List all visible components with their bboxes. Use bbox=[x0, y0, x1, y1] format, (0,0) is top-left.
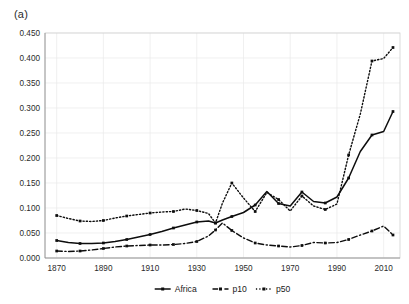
data-point-marker bbox=[301, 244, 304, 247]
data-point-marker bbox=[301, 195, 304, 198]
data-point-marker bbox=[55, 250, 58, 253]
legend-marker-africa bbox=[161, 288, 164, 291]
data-point-marker bbox=[149, 233, 152, 236]
y-tick-label: 0.050 bbox=[20, 229, 41, 238]
y-tick-label: 0.000 bbox=[20, 254, 41, 263]
plot-frame bbox=[45, 33, 400, 258]
y-tick-label: 0.350 bbox=[20, 79, 41, 88]
x-tick-label: 1870 bbox=[48, 264, 67, 273]
data-point-marker bbox=[254, 204, 257, 207]
data-point-marker bbox=[371, 60, 374, 63]
data-point-marker bbox=[230, 215, 233, 218]
data-point-marker bbox=[172, 210, 175, 213]
data-point-marker bbox=[79, 220, 82, 223]
x-tick-label: 1910 bbox=[141, 264, 160, 273]
data-point-marker bbox=[324, 202, 327, 205]
data-point-marker bbox=[277, 198, 280, 201]
legend-label-p50: p50 bbox=[276, 284, 291, 294]
data-point-marker bbox=[254, 210, 257, 213]
series-line bbox=[57, 112, 393, 244]
data-point-marker bbox=[172, 227, 175, 230]
data-point-marker bbox=[371, 134, 374, 137]
data-point-marker bbox=[125, 215, 128, 218]
y-tick-label: 0.150 bbox=[20, 179, 41, 188]
data-point-marker bbox=[149, 244, 152, 247]
y-axis-tick-labels: 0.0000.0500.1000.1500.2000.2500.3000.350… bbox=[20, 29, 41, 263]
y-tick-label: 0.450 bbox=[20, 29, 41, 38]
legend-marker-p50 bbox=[262, 288, 265, 291]
data-point-marker bbox=[254, 242, 257, 245]
x-tick-label: 1890 bbox=[94, 264, 113, 273]
y-tick-label: 0.300 bbox=[20, 104, 41, 113]
data-point-marker bbox=[172, 243, 175, 246]
data-point-marker bbox=[102, 242, 105, 245]
data-point-marker bbox=[102, 219, 105, 222]
chart-legend: Africap10p50 bbox=[155, 284, 291, 294]
series-line bbox=[57, 48, 393, 224]
data-point-marker bbox=[214, 229, 217, 232]
y-tick-label: 0.400 bbox=[20, 54, 41, 63]
data-point-marker bbox=[371, 230, 374, 233]
data-point-marker bbox=[392, 110, 395, 113]
data-point-marker bbox=[392, 234, 395, 237]
data-point-marker bbox=[347, 154, 350, 157]
series-p50 bbox=[55, 46, 394, 224]
x-tick-label: 1950 bbox=[234, 264, 253, 273]
data-point-marker bbox=[301, 191, 304, 194]
data-point-marker bbox=[102, 247, 105, 250]
series-p10 bbox=[55, 223, 394, 252]
data-point-marker bbox=[230, 182, 233, 185]
legend-label-p10: p10 bbox=[233, 284, 248, 294]
data-point-marker bbox=[214, 222, 217, 225]
data-point-marker bbox=[230, 229, 233, 232]
x-axis-tick-labels: 18701890191019301950197019902010 bbox=[48, 264, 394, 273]
data-point-marker bbox=[277, 202, 280, 205]
data-point-marker bbox=[125, 245, 128, 248]
data-point-marker bbox=[79, 250, 82, 253]
x-tick-label: 2010 bbox=[375, 264, 394, 273]
chart-plot-area: 0.0000.0500.1000.1500.2000.2500.3000.350… bbox=[0, 0, 409, 304]
data-point-marker bbox=[195, 221, 198, 224]
data-point-marker bbox=[55, 214, 58, 217]
data-point-marker bbox=[195, 209, 198, 212]
data-point-marker bbox=[125, 238, 128, 241]
gridlines bbox=[45, 33, 400, 258]
data-series-group bbox=[55, 46, 394, 252]
line-chart: 0.0000.0500.1000.1500.2000.2500.3000.350… bbox=[0, 0, 409, 304]
data-point-marker bbox=[195, 240, 198, 243]
data-point-marker bbox=[55, 239, 58, 242]
data-point-marker bbox=[324, 208, 327, 211]
y-tick-label: 0.100 bbox=[20, 204, 41, 213]
data-point-marker bbox=[347, 177, 350, 180]
data-point-marker bbox=[392, 46, 395, 49]
data-point-marker bbox=[347, 238, 350, 241]
figure-panel-a: (a) 0.0000.0500.1000.1500.2000.2500.3000… bbox=[0, 0, 409, 304]
legend-label-africa: Africa bbox=[175, 284, 197, 294]
x-tick-label: 1990 bbox=[328, 264, 347, 273]
x-tick-label: 1970 bbox=[281, 264, 300, 273]
y-tick-label: 0.200 bbox=[20, 154, 41, 163]
data-point-marker bbox=[277, 245, 280, 248]
data-point-marker bbox=[79, 242, 82, 245]
x-tick-label: 1930 bbox=[188, 264, 207, 273]
data-point-marker bbox=[324, 242, 327, 245]
y-tick-label: 0.250 bbox=[20, 129, 41, 138]
data-point-marker bbox=[149, 212, 152, 215]
series-line bbox=[57, 223, 393, 252]
legend-marker-p10 bbox=[219, 288, 222, 291]
